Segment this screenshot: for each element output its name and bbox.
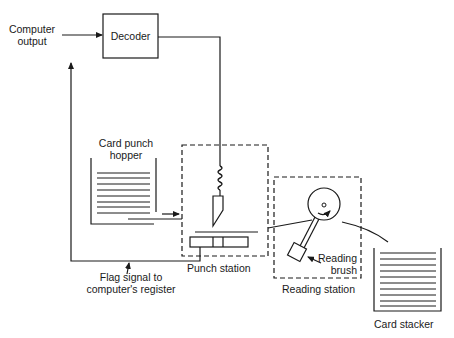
flag-signal-label-line2: computer's register [76, 283, 186, 295]
rotation-arrow [318, 211, 330, 215]
reading-brush-label: Reading brush [305, 252, 357, 276]
flag-signal-label-line1: Flag signal to [76, 271, 186, 283]
card-punch-hopper-label: Card punch hopper [86, 137, 166, 161]
punch-blade [213, 196, 223, 226]
punch-die-block [190, 237, 248, 247]
card-stacker-label: Card stacker [374, 318, 434, 330]
card-stacker-tray [374, 248, 441, 311]
card-punch-hopper-label-line2: hopper [86, 149, 166, 161]
decoder-label: Decoder [103, 30, 158, 42]
solenoid-coil [218, 166, 222, 190]
reading-brush-label-line1: Reading [305, 252, 357, 264]
computer-output-label: Computer output [4, 23, 60, 47]
computer-output-label-line2: output [4, 35, 60, 47]
diagram-lines [0, 0, 454, 338]
reading-brush-block [288, 243, 307, 262]
reading-brush-label-line2: brush [305, 264, 357, 276]
punch-station-box [182, 145, 268, 256]
reading-roller [308, 188, 340, 220]
decoder-to-punch-wire [158, 37, 220, 166]
flag-signal-line [71, 63, 200, 261]
card-punch-hopper-label-line1: Card punch [86, 137, 166, 149]
flag-signal-label: Flag signal to computer's register [76, 271, 186, 295]
punch-station-label: Punch station [187, 262, 251, 274]
card-path-to-stacker [342, 222, 388, 242]
diagram-canvas: Computer output Decoder Card punch hoppe… [0, 0, 454, 338]
hopper-wall [91, 158, 154, 224]
reading-station-label: Reading station [282, 283, 355, 295]
computer-output-label-line1: Computer [4, 23, 60, 35]
